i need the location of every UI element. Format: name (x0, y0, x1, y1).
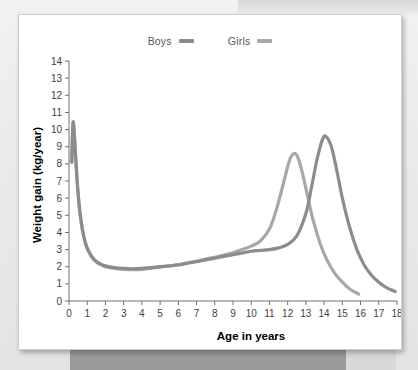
weight-gain-line-chart: 01234567891011121314 0123456789101112131… (19, 15, 401, 349)
y-tick-label: 2 (56, 261, 62, 272)
y-tick-labels: 01234567891011121314 (51, 56, 63, 307)
series-line-boys (72, 122, 395, 292)
x-tick-label: 15 (337, 308, 349, 319)
x-tick-label: 6 (176, 308, 182, 319)
y-tick-label: 0 (56, 296, 62, 307)
x-tick-label: 10 (246, 308, 258, 319)
x-tick-label: 0 (66, 308, 72, 319)
x-tick-label: 4 (139, 308, 145, 319)
y-tick-label: 6 (56, 193, 62, 204)
chart-card: Boys Girls 01234567891011121314 01234567… (18, 14, 402, 350)
y-tick-label: 5 (56, 210, 62, 221)
y-tick-label: 10 (51, 124, 63, 135)
x-tick-label: 13 (300, 308, 312, 319)
y-tick-label: 12 (51, 90, 63, 101)
axes (69, 61, 397, 301)
x-tick-label: 11 (264, 308, 275, 319)
x-axis-title: Age in years (217, 330, 285, 342)
y-tick-label: 1 (56, 278, 62, 289)
y-tick-label: 8 (56, 158, 62, 169)
y-tick-label: 13 (51, 73, 63, 84)
x-tick-label: 1 (84, 308, 90, 319)
x-tick-label: 16 (355, 308, 367, 319)
x-tick-labels: 0123456789101112131415161718 (66, 308, 401, 319)
data-series (72, 122, 395, 294)
x-tick-label: 3 (121, 308, 127, 319)
x-tick-label: 7 (194, 308, 200, 319)
x-tick-label: 12 (282, 308, 294, 319)
x-tick-label: 5 (157, 308, 163, 319)
y-tick-label: 11 (52, 107, 63, 118)
y-tick-label: 9 (56, 141, 62, 152)
y-tick-label: 7 (56, 176, 62, 187)
y-tick-label: 3 (56, 244, 62, 255)
x-tick-label: 18 (391, 308, 401, 319)
y-tick-label: 14 (51, 56, 63, 67)
y-tick-label: 4 (56, 227, 62, 238)
x-tick-label: 17 (373, 308, 385, 319)
x-tick-label: 8 (212, 308, 218, 319)
y-axis-title: Weight gain (kg/year) (31, 127, 43, 243)
page-background: Boys Girls 01234567891011121314 01234567… (0, 0, 418, 370)
x-tick-label: 9 (230, 308, 236, 319)
x-tick-label: 14 (319, 308, 331, 319)
x-tick-label: 2 (103, 308, 109, 319)
